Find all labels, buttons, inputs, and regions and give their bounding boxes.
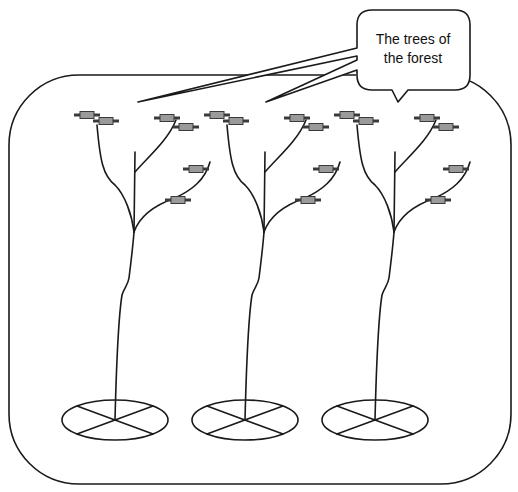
forest-diagram <box>0 0 518 492</box>
forest-frame <box>9 75 511 484</box>
tree-2 <box>192 112 340 441</box>
tree-1 <box>62 112 210 441</box>
callout-label: The trees of the forest <box>357 30 469 68</box>
callout-line-1: The trees of <box>357 30 469 49</box>
tree-3 <box>322 112 470 441</box>
callout-line-2: the forest <box>357 49 469 68</box>
